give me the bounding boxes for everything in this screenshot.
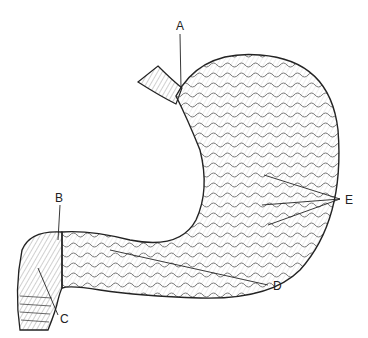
label-d: D [273,280,282,292]
stomach-illustration [0,0,368,338]
label-b: B [55,192,63,204]
label-e: E [345,194,353,206]
stomach-diagram: A B C D E [0,0,368,338]
duodenum [17,232,62,330]
esophagus [138,66,182,104]
label-c: C [60,313,69,325]
label-a: A [176,20,184,32]
